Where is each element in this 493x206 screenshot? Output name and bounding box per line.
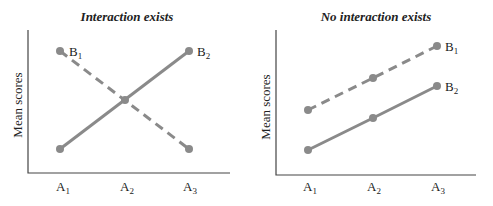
series-label-b2: B2 xyxy=(197,44,210,61)
data-point xyxy=(56,145,64,153)
data-point xyxy=(304,106,312,114)
x-tick-a3: A3 xyxy=(431,179,445,196)
data-point xyxy=(433,42,441,50)
data-point xyxy=(369,74,377,82)
figure: Interaction exists Mean scores B1 B2 A1 … xyxy=(0,0,493,206)
data-point xyxy=(185,47,193,55)
chart-title: No interaction exists xyxy=(320,9,432,24)
data-point xyxy=(121,96,129,104)
series-label-b1: B1 xyxy=(69,44,82,61)
series-label-b2: B2 xyxy=(445,79,458,96)
data-point xyxy=(433,82,441,90)
x-tick-a1: A1 xyxy=(303,179,317,196)
data-point xyxy=(56,47,64,55)
x-tick-a2: A2 xyxy=(367,179,381,196)
chart-no-interaction-exists: No interaction exists Mean scores B1 B2 … xyxy=(258,9,476,196)
y-axis-label: Mean scores xyxy=(10,72,25,137)
x-tick-a2: A2 xyxy=(120,179,134,196)
x-tick-a3: A3 xyxy=(183,179,197,196)
data-point xyxy=(304,146,312,154)
y-axis-label: Mean scores xyxy=(258,74,273,139)
chart-interaction-exists: Interaction exists Mean scores B1 B2 A1 … xyxy=(10,9,230,196)
data-point xyxy=(185,145,193,153)
chart-title: Interaction exists xyxy=(80,9,174,24)
series-label-b1: B1 xyxy=(445,39,458,56)
data-point xyxy=(369,114,377,122)
x-tick-a1: A1 xyxy=(56,179,70,196)
